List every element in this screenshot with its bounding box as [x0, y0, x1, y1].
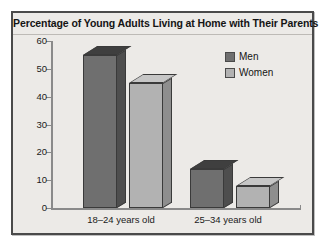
bar-side-face	[117, 49, 126, 208]
bar-men-25-34[interactable]	[190, 169, 224, 208]
x-axis-end-cap	[300, 205, 301, 210]
x-category-label-2: 25–34 years old	[173, 214, 283, 225]
y-tick-label-60: 60	[36, 35, 47, 46]
bar-women-25-34[interactable]	[236, 186, 270, 208]
bar-front-face	[129, 83, 163, 208]
bar-front-face	[83, 55, 117, 208]
legend-label-women: Women	[239, 67, 273, 78]
x-category-label-1: 18–24 years old	[66, 214, 176, 225]
y-tick-label-40: 40	[36, 91, 47, 102]
y-tick-label-10: 10	[36, 174, 47, 185]
legend-item-men[interactable]: Men	[225, 51, 273, 62]
x-axis-line	[51, 208, 301, 210]
y-axis-line	[51, 41, 53, 210]
chart-title: Percentage of Young Adults Living at Hom…	[13, 17, 312, 29]
bar-women-18-24[interactable]	[129, 83, 163, 208]
chart-legend: Men Women	[225, 51, 273, 83]
y-tick-label-30: 30	[36, 119, 47, 130]
bar-men-18-24[interactable]	[83, 55, 117, 208]
bar-front-face	[236, 186, 270, 208]
y-tick-label-50: 50	[36, 63, 47, 74]
legend-swatch-men-icon	[225, 52, 235, 62]
legend-swatch-women-icon	[225, 68, 235, 78]
chart-frame: Percentage of Young Adults Living at Hom…	[11, 11, 314, 235]
title-divider	[13, 34, 312, 35]
legend-label-men: Men	[239, 51, 258, 62]
y-tick-label-20: 20	[36, 146, 47, 157]
bar-side-face	[163, 77, 172, 208]
bar-side-face	[224, 163, 233, 208]
legend-item-women[interactable]: Women	[225, 67, 273, 78]
y-tick-label-0: 0	[42, 202, 47, 213]
bar-front-face	[190, 169, 224, 208]
